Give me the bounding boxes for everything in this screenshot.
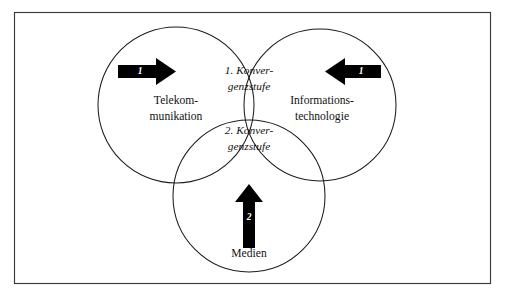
arrow-right-to-left-number: 1 — [359, 66, 364, 76]
label-konvergenzstufe-1-line1: 1. Konver- — [225, 64, 274, 76]
label-konvergenzstufe-1-line2: genzstufe — [228, 80, 270, 92]
label-konvergenzstufe-2-line2: genzstufe — [228, 140, 270, 152]
label-konvergenzstufe-2-line1: 2. Konver- — [225, 124, 274, 136]
figure-root: Telekom- munikation Informations- techno… — [0, 0, 506, 296]
venn-diagram: Telekom- munikation Informations- techno… — [0, 0, 506, 296]
label-informationstechnologie-line1: Informations- — [290, 94, 354, 107]
label-telekommunikation-line1: Telekom- — [154, 94, 198, 107]
label-telekommunikation-line2: munikation — [150, 110, 203, 123]
arrow-left-to-right-number: 1 — [138, 66, 143, 76]
label-medien: Medien — [231, 247, 267, 260]
arrow-bottom-up-number: 2 — [246, 212, 252, 222]
label-informationstechnologie-line2: technologie — [295, 110, 349, 123]
